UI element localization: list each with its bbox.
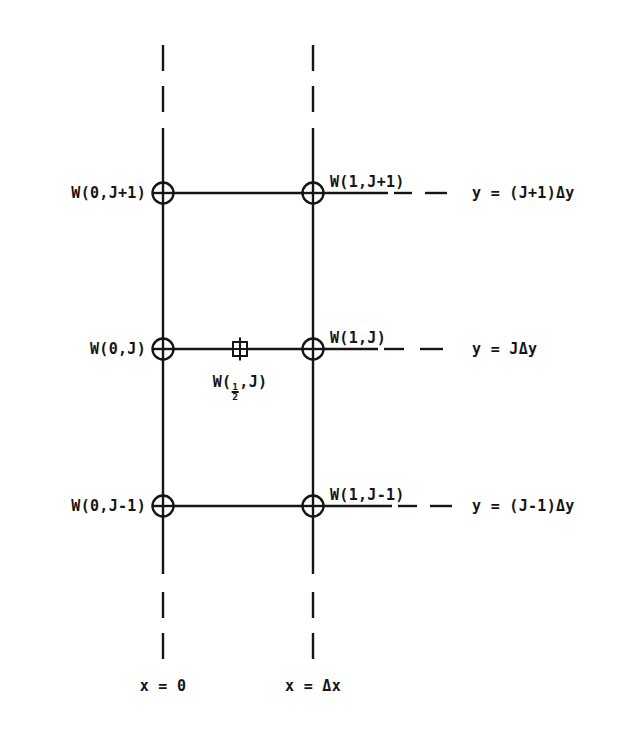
node-label-w-0-j: W(0,J)	[90, 342, 146, 357]
midpoint-label-w-half-j: W(12,J)	[213, 375, 268, 401]
crossed-square-icon	[230, 338, 251, 361]
y-value-label-jm1: y = (J-1)Δy	[472, 499, 575, 514]
node-w-0-jm1	[153, 496, 174, 517]
node-label-w-1-jp1: W(1,J+1)	[330, 175, 405, 190]
node-w-1-j	[303, 339, 324, 360]
axis-label-xdx: x = Δx	[285, 679, 341, 694]
fraction-denominator: 2	[232, 393, 238, 401]
axis-label-x0: x = 0	[140, 679, 187, 694]
one-half-fraction: 12	[232, 383, 239, 401]
midpoint-label-suffix: ,J)	[239, 373, 267, 391]
node-w-0-jp1	[153, 183, 174, 204]
diagram-canvas: W(0,J+1) W(0,J) W(0,J-1) W(1,J+1) W(1,J)…	[0, 0, 622, 734]
node-label-w-0-jm1: W(0,J-1)	[71, 499, 146, 514]
y-value-label-j: y = JΔy	[472, 342, 537, 357]
node-label-w-0-jp1: W(0,J+1)	[71, 186, 146, 201]
grid-stencil-graphic	[0, 0, 622, 734]
node-label-w-1-j: W(1,J)	[330, 331, 386, 346]
midpoint-label-prefix: W(	[213, 373, 232, 391]
node-w-1-jp1	[303, 183, 324, 204]
node-label-w-1-jm1: W(1,J-1)	[330, 488, 405, 503]
y-value-label-jp1: y = (J+1)Δy	[472, 186, 575, 201]
node-w-1-jm1	[303, 496, 324, 517]
fraction-numerator: 1	[232, 383, 238, 391]
node-w-0-j	[153, 339, 174, 360]
